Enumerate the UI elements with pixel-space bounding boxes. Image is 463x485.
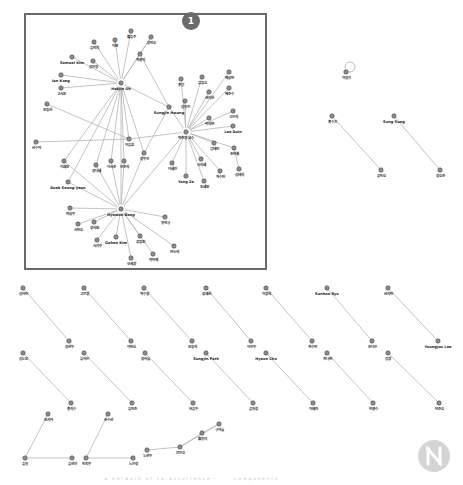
graph-node: 최수영	[140, 286, 149, 296]
node-label: 구하늘	[215, 427, 225, 432]
node-label: Sungjin Park	[193, 357, 219, 361]
node-label: 홍수진	[328, 119, 338, 124]
node-dot	[344, 70, 348, 74]
graph-node: 송유	[22, 456, 29, 466]
node-label: 이민호	[127, 344, 137, 349]
graph-node: 조수현	[104, 412, 113, 422]
node-label: 노현우	[143, 453, 153, 458]
graph-node: Sung Sung	[383, 114, 405, 124]
node-dot	[70, 456, 74, 460]
graph-node: 이진우	[247, 339, 257, 349]
graph-node: Sunhae Ryu	[315, 286, 339, 296]
graph-edge	[145, 353, 193, 403]
node-dot	[21, 286, 25, 290]
node-label: 송유정	[249, 406, 258, 411]
node-label: 윤다은	[368, 344, 378, 349]
node-label: 강인호	[377, 173, 387, 178]
node-label: Sunhae Ryu	[315, 292, 339, 296]
node-dot	[251, 401, 255, 405]
node-label: 최수영	[140, 291, 149, 296]
node-label: Sung Sung	[383, 120, 405, 124]
node-label: 이예린	[309, 406, 319, 411]
graph-node: 정현우	[65, 339, 75, 349]
graph-node: 홍지수	[67, 401, 77, 411]
node-label: 홍지수	[67, 406, 77, 411]
graph-node: Youngjoo Lee	[423, 339, 452, 349]
node-label: 조수현	[104, 417, 113, 422]
graph-edge	[206, 353, 253, 403]
node-label: Hyeon Cho	[255, 357, 277, 361]
node-label: 이정후	[342, 75, 352, 80]
graph-edge	[388, 353, 439, 403]
graph-node: 민경수	[369, 401, 379, 411]
graph-edge	[327, 288, 372, 341]
node-label: 김도윤	[19, 356, 29, 361]
node-dot	[23, 456, 27, 460]
highlighted-component-frame	[24, 13, 267, 270]
node-label: 이진우	[247, 344, 257, 349]
graph-edge	[394, 116, 440, 170]
graph-node: 구하늘	[215, 422, 225, 432]
graph-edge	[23, 353, 71, 403]
node-label: 김영	[385, 356, 391, 361]
node-dot	[191, 401, 195, 405]
node-dot	[106, 412, 110, 416]
node-label: 민지우	[82, 461, 92, 466]
node-label: 민준호	[435, 406, 445, 411]
node-dot	[330, 114, 334, 118]
graph-node: 민지우	[82, 456, 92, 466]
graph-node: 홍수진	[328, 114, 338, 124]
graph-node: 민준호	[435, 401, 445, 411]
graph-edge	[388, 288, 438, 341]
node-dot	[204, 286, 208, 290]
node-dot	[200, 431, 204, 435]
node-label: 최나연	[323, 356, 333, 361]
graph-edge	[332, 116, 381, 170]
node-dot	[204, 351, 208, 355]
node-dot	[264, 286, 268, 290]
graph-node: 윤동희	[188, 339, 197, 349]
node-label: 윤동희	[188, 344, 197, 349]
node-dot	[142, 286, 146, 290]
node-dot	[84, 456, 88, 460]
graph-node: 김영	[385, 351, 391, 361]
node-dot	[67, 339, 71, 343]
node-label: 노은정	[129, 461, 138, 466]
node-label: 정하늘	[141, 356, 151, 361]
graph-node: 정하늘	[141, 351, 151, 361]
graph-node: 이민호	[127, 339, 137, 349]
node-dot	[311, 401, 315, 405]
node-dot	[436, 339, 440, 343]
graph-node: 윤지아	[44, 412, 54, 422]
graph-node: 노은정	[129, 456, 138, 466]
graph-node: 전은호	[176, 445, 186, 455]
node-dot	[325, 351, 329, 355]
node-dot	[392, 114, 396, 118]
node-dot	[264, 351, 268, 355]
node-dot	[310, 339, 314, 343]
node-dot	[371, 401, 375, 405]
graph-edge	[84, 288, 131, 341]
graph-edge	[266, 353, 313, 403]
node-label: 이영희	[262, 291, 271, 296]
graph-node: 김도윤	[19, 351, 29, 361]
node-dot	[370, 339, 374, 343]
node-label: 한승우	[189, 406, 199, 411]
node-label: 전은호	[176, 450, 186, 455]
node-dot	[130, 401, 134, 405]
graph-node: 고은영	[80, 286, 89, 296]
node-dot	[82, 286, 86, 290]
node-label: 황유리	[198, 436, 207, 441]
node-dot	[386, 286, 390, 290]
node-dot	[131, 456, 135, 460]
node-label: 김하린	[19, 291, 29, 296]
node-dot	[190, 339, 194, 343]
node-dot	[379, 168, 383, 172]
node-dot	[178, 445, 182, 449]
graph-node: 강인호	[377, 168, 387, 178]
graph-edge	[327, 353, 373, 403]
graph-node: 송하은	[80, 351, 90, 361]
graph-node: 이예린	[309, 401, 319, 411]
graph-node: 정호준	[436, 168, 446, 178]
graph-edge	[84, 353, 132, 403]
